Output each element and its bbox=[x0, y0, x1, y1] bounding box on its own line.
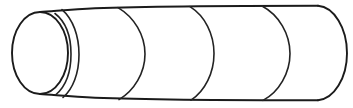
cylinder-line-drawing: Cylinder line drawing bbox=[0, 0, 353, 108]
figure-canvas: Cylinder line drawing bbox=[0, 0, 353, 108]
